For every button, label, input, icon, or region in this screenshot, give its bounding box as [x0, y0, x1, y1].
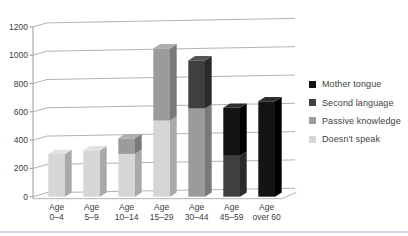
bar-segment-side [205, 104, 212, 197]
bar-age-10–14 [118, 134, 141, 197]
bar-age-15–29 [153, 44, 176, 197]
bar-segment [258, 101, 275, 196]
legend: Mother tongueSecond languagePassive know… [309, 75, 401, 149]
legend-item: Second language [309, 93, 401, 111]
bar-segment-side [135, 150, 142, 197]
x-category-label: Age [189, 202, 204, 212]
bar-age-5–9 [83, 146, 106, 197]
bottom-divider-line [0, 231, 408, 233]
bar-segment-side [240, 152, 247, 197]
y-tick-label: 600 [14, 107, 28, 117]
x-category-label: Age [119, 202, 134, 212]
chart-page: 020040060080010001200Age0–4Age5–9Age10–1… [0, 0, 408, 236]
legend-label: Mother tongue [322, 79, 381, 89]
bar-age-30–44 [188, 56, 211, 197]
legend-swatch-icon [309, 117, 316, 124]
bar-segment [153, 48, 170, 120]
bar-age-over-60 [258, 97, 281, 197]
legend-item: Passive knowledge [309, 112, 401, 130]
x-category-label: 5–9 [85, 212, 99, 222]
x-category-label: 15–29 [150, 212, 174, 222]
legend-swatch-icon [309, 99, 316, 106]
x-category-label: over 60 [252, 212, 281, 222]
x-category-label: Age [224, 202, 239, 212]
bar-segment [83, 150, 100, 196]
y-tick-label: 0 [23, 192, 28, 202]
legend-label: Doesn't speak [322, 134, 380, 144]
x-category-label: 45–59 [220, 212, 244, 222]
bar-segment-side [205, 56, 212, 108]
y-tick-label: 1200 [9, 22, 28, 32]
bar-segment [188, 60, 205, 108]
legend-label: Second language [322, 98, 394, 108]
legend-swatch-icon [309, 136, 316, 143]
bar-segment-side [240, 103, 247, 155]
y-tick-label: 800 [14, 79, 28, 89]
gridline [33, 18, 295, 27]
x-category-label: 10–14 [115, 212, 139, 222]
legend-swatch-icon [309, 81, 316, 88]
x-category-label: Age [154, 202, 169, 212]
bar-segment [188, 108, 205, 196]
bar-segment-side [170, 116, 177, 196]
bar-age-45–59 [223, 103, 246, 196]
bar-segment-side [65, 150, 72, 197]
bar-segment [118, 138, 135, 154]
y-tick-label: 200 [14, 163, 28, 173]
legend-item: Doesn't speak [309, 130, 401, 148]
x-category-label: 0–4 [50, 212, 64, 222]
bar-segment [223, 108, 240, 156]
bar-segment [48, 154, 65, 197]
legend-item: Mother tongue [309, 75, 401, 93]
y-tick-label: 1000 [9, 50, 28, 60]
x-category-label: Age [84, 202, 99, 212]
bar-segment-side [100, 146, 107, 197]
y-tick-label: 400 [14, 135, 28, 145]
bar-age-0–4 [48, 150, 71, 197]
bar-segment [223, 156, 240, 197]
x-category-label: 30–44 [185, 212, 209, 222]
bar-segment-side [170, 44, 177, 120]
x-category-label: Age [49, 202, 64, 212]
bar-segment [118, 154, 135, 197]
legend-label: Passive knowledge [322, 116, 401, 126]
x-category-label: Age [259, 202, 274, 212]
bar-segment-side [275, 97, 282, 197]
bar-segment [153, 121, 170, 197]
